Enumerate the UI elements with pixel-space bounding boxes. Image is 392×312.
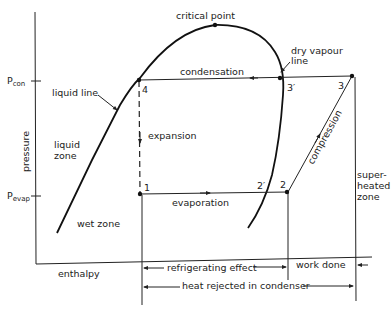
liquid-zone-label-2: zone: [54, 150, 77, 161]
heat-rejected-label: heat rejected in condenser: [182, 280, 310, 291]
liquid-zone-label-1: liquid: [54, 139, 80, 150]
expansion-label: expansion: [148, 130, 197, 141]
superheated-label-1: super-: [357, 169, 387, 180]
evaporation-label: evaporation: [172, 197, 229, 208]
critical-point-label: critical point: [176, 10, 235, 21]
p-evap-label: Pevap: [7, 190, 30, 203]
y-axis: [35, 12, 36, 264]
work-done-label: work done: [296, 259, 346, 270]
point-1-label: 1: [144, 182, 150, 193]
refrigerating-effect-label: refrigerating effect: [167, 262, 257, 273]
point-3-label: 3: [338, 80, 344, 91]
point-4: [137, 78, 141, 82]
point-3-prime-label: 3′: [287, 82, 295, 93]
point-1: [138, 192, 142, 196]
vertical-line-3: [355, 77, 356, 301]
condensation-line: [139, 76, 352, 80]
dry-vapour-pointer: [281, 62, 290, 72]
point-2-prime-label: 2′: [257, 180, 265, 191]
wet-zone-label: wet zone: [77, 218, 120, 229]
saturation-curve: [57, 25, 283, 233]
critical-point: [213, 23, 217, 27]
point-2-label: 2: [280, 179, 286, 190]
ph-diagram: pressure enthalpy Pcon Pevap 4 3′ 3 1 2′…: [0, 0, 392, 312]
point-2: [285, 190, 289, 194]
point-3: [350, 74, 354, 78]
x-axis-label: enthalpy: [58, 268, 100, 279]
liquid-line-pointer: [98, 95, 117, 110]
compression-label: compression: [305, 108, 344, 166]
y-axis-label: pressure: [20, 131, 31, 172]
p-con-label: Pcon: [7, 75, 25, 88]
liquid-line-label: liquid line: [52, 87, 98, 98]
point-4-label: 4: [142, 84, 148, 95]
dry-vapour-label-2: line: [291, 55, 308, 66]
point-3-prime: [278, 76, 282, 80]
superheated-label-2: heated: [357, 180, 390, 191]
condensation-label: condensation: [180, 66, 244, 77]
superheated-label-3: zone: [357, 191, 380, 202]
